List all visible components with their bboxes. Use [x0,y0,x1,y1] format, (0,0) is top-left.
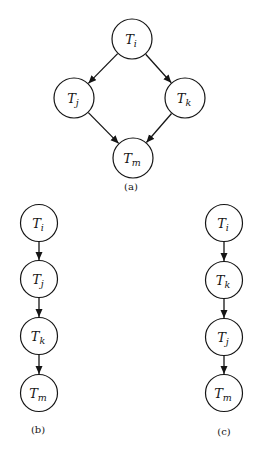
edge-Tk-Tm-a [146,113,171,142]
task-precedence-figure: TiTjTkTmTiTjTkTmTiTkTjTm (a) (b) (c) [0,0,260,459]
caption-c: (c) [217,426,230,438]
edge-Ti-Tj-a [88,54,117,84]
edge-Tj-Tm-a [88,113,118,144]
caption-b: (b) [31,424,45,436]
task-graph-diagram: TiTjTkTmTiTjTkTmTiTkTjTm [0,0,260,459]
caption-a: (a) [124,181,138,193]
graph-a: TiTjTkTm [54,19,205,178]
edge-Ti-Tk-a [146,54,172,82]
graph-c: TiTkTjTm [206,205,243,412]
graph-b: TiTjTkTm [21,205,58,412]
